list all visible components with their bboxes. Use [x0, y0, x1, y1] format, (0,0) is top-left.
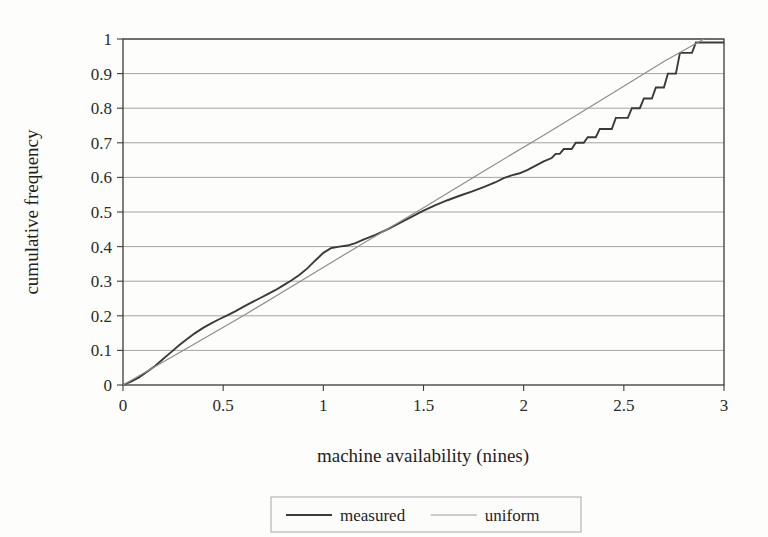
x-tick-label: 0: [119, 396, 128, 415]
x-tick-label: 2.5: [613, 396, 634, 415]
x-axis-title: machine availability (nines): [317, 445, 529, 467]
y-axis-title: cumulative frequency: [21, 129, 42, 295]
y-tick-label: 0.9: [91, 65, 112, 84]
x-tick-label: 1.5: [413, 396, 434, 415]
y-tick-label: 0.3: [91, 272, 112, 291]
y-tick-label: 0.1: [91, 341, 112, 360]
legend-label-measured: measured: [340, 506, 406, 525]
y-tick-label: 0.4: [91, 238, 113, 257]
y-tick-label: 0.5: [91, 203, 112, 222]
x-tick-label: 1: [319, 396, 328, 415]
y-tick-label: 0: [104, 376, 113, 395]
x-tick-label: 0.5: [213, 396, 234, 415]
x-tick-label: 2: [519, 396, 528, 415]
y-tick-label: 0.8: [91, 99, 112, 118]
y-tick-label: 0.2: [91, 307, 112, 326]
legend-label-uniform: uniform: [485, 506, 540, 525]
cumulative-frequency-chart: 00.511.522.53 00.10.20.30.40.50.60.70.80…: [0, 0, 768, 537]
y-tick-label: 0.6: [91, 168, 112, 187]
y-tick-label: 0.7: [91, 134, 113, 153]
chart-figure: 00.511.522.53 00.10.20.30.40.50.60.70.80…: [0, 0, 768, 537]
y-tick-label: 1: [104, 30, 113, 49]
x-tick-label: 3: [720, 396, 729, 415]
